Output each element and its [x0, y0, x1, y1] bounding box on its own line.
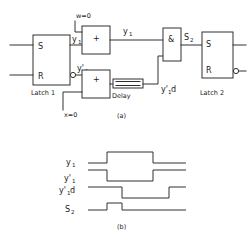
signal-y1-or-sub: 1: [129, 31, 133, 37]
timing-label-y1: y: [66, 158, 71, 167]
and-gate-box[interactable]: [163, 28, 181, 61]
caption-b: (b): [117, 223, 126, 231]
latch2-qbar-bubble-icon: [233, 68, 238, 73]
latch2-name: Latch 2: [200, 89, 224, 97]
timing-label-s2-sub: 2: [71, 209, 75, 215]
signal-x-label: x=0: [64, 111, 77, 119]
timing-label-y1d: y': [59, 186, 66, 195]
figure-container: S R Latch 1 y 1 y' 1 + w=0 y: [0, 0, 248, 235]
timing-diagram: y 1 y' 1 y' 1 d S 2 (b): [59, 152, 186, 231]
signal-w-label: w=0: [76, 12, 91, 20]
signal-y1-or-label: y: [123, 27, 128, 36]
circuit-diagram: S R Latch 1 y 1 y' 1 + w=0 y: [10, 12, 246, 120]
x-input-wire: [63, 92, 82, 110]
w-input-wire: [75, 21, 82, 32]
delay-output-wire: [143, 56, 163, 84]
latch1-r-label: R: [38, 72, 44, 81]
signal-y1d-label: y': [161, 85, 168, 94]
signal-s2-label: S: [184, 33, 189, 42]
timing-label-s2: S: [65, 205, 70, 214]
timing-label-y1-sub: 1: [72, 162, 76, 168]
latch1-qbar-bubble-icon: [70, 72, 75, 77]
latch1-s-label: S: [38, 42, 43, 51]
timing-label-y1n: y': [64, 174, 71, 183]
circuit-and-timing-figure: S R Latch 1 y 1 y' 1 + w=0 y: [0, 0, 248, 235]
timing-wave-s2: [88, 203, 186, 210]
delay-label: Delay: [112, 92, 131, 100]
signal-y1d-suffix: d: [171, 85, 176, 94]
signal-s2-sub: 2: [190, 37, 194, 43]
timing-label-y1d-suffix: d: [70, 186, 75, 195]
timing-label-y1n-sub: 1: [72, 178, 76, 184]
latch2-s-label: S: [206, 40, 211, 49]
delay-block-box[interactable]: [113, 79, 143, 88]
signal-y1-latch-sub: 1: [78, 39, 82, 45]
signal-y1-latch-label: y: [72, 35, 77, 44]
or-gate-bottom-symbol: +: [93, 75, 100, 84]
latch1-name: Latch 1: [31, 89, 55, 97]
or-gate-top-symbol: +: [93, 34, 100, 43]
timing-wave-y1n: [88, 170, 186, 181]
timing-wave-y1d: [88, 187, 186, 198]
latch2-r-label: R: [206, 66, 212, 75]
timing-wave-y1: [88, 152, 186, 163]
and-gate-symbol: &: [168, 35, 174, 44]
caption-a: (a): [117, 112, 126, 120]
